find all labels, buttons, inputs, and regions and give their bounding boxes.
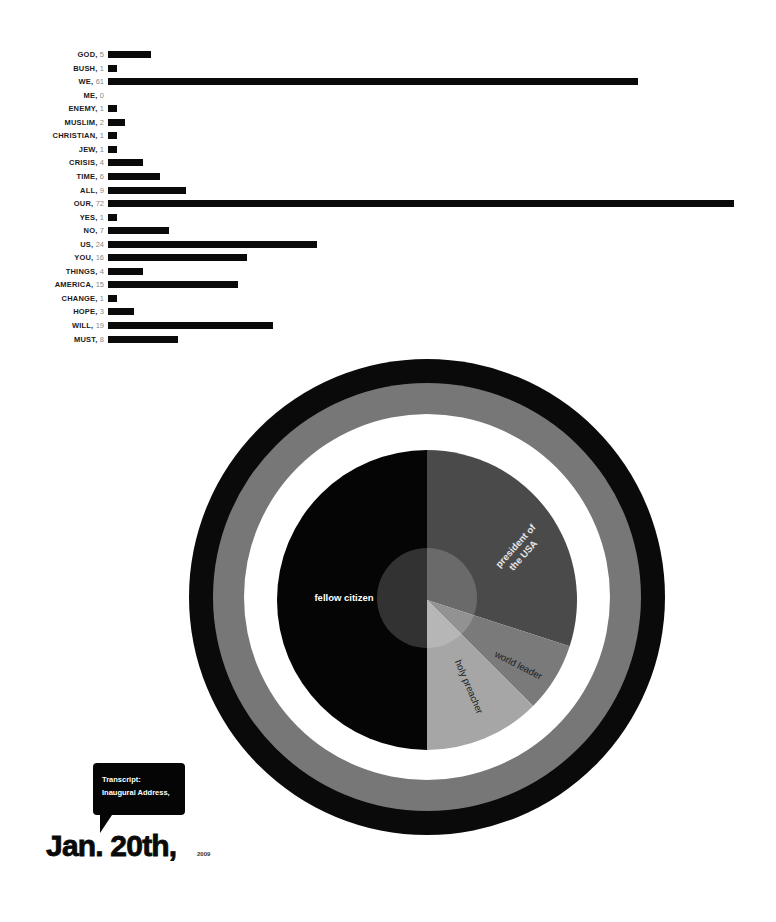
callout-line-2: Inaugural Address, <box>102 788 170 797</box>
date-year: 2009 <box>197 851 210 857</box>
date-heading: Jan. 20th, <box>46 829 176 863</box>
transcript-callout: Transcript: Inaugural Address, <box>93 763 185 815</box>
callout-line-1: Transcript: <box>102 775 141 784</box>
